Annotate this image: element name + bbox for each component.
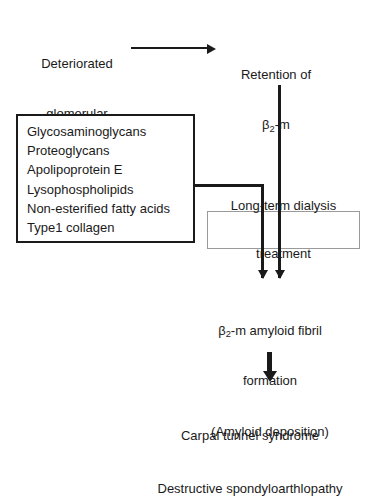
beta-suffix: -m amyloid fibril xyxy=(231,323,322,338)
list-item: Carpal tunnel syndrome xyxy=(128,427,372,445)
beta-subscript: 2 xyxy=(270,124,275,134)
node-retention-line-1: Retention of xyxy=(212,67,340,84)
molecules-list: Glycosaminoglycans Proteoglycans Apolipo… xyxy=(27,122,170,237)
arrowhead-molecules-trunk xyxy=(258,270,268,279)
list-item: Lysophospholipids xyxy=(27,180,170,199)
arrowhead-retention-trunk xyxy=(275,270,285,279)
connector-molecules-vertical xyxy=(261,184,264,278)
arrowhead-amyloid-to-outcomes xyxy=(263,371,277,382)
box-dialysis-treatment: Long-term dialysis treatment xyxy=(207,211,360,249)
flowchart-canvas: Deteriorated glomerular filtration rate … xyxy=(0,0,378,503)
node-retention-line-2: β2-m xyxy=(212,117,340,134)
list-item: Destructive spondyloarthlopathy xyxy=(128,480,372,498)
node-deteriorated-line-1: Deteriorated xyxy=(18,56,136,73)
connector-molecules-horizontal xyxy=(193,184,264,187)
dialysis-line-2: treatment xyxy=(231,246,337,262)
list-item: Glycosaminoglycans xyxy=(27,122,170,141)
connector-gfr-to-retention xyxy=(131,47,209,49)
list-item: Non-esterified fatty acids xyxy=(27,199,170,218)
list-item: Type1 collagen xyxy=(27,218,170,237)
node-amyloid-line-1: β2-m amyloid fibril xyxy=(186,323,354,340)
beta-subscript: 2 xyxy=(226,329,231,339)
connector-retention-trunk xyxy=(278,85,281,278)
dialysis-line-1: Long-term dialysis xyxy=(231,198,337,214)
beta-symbol: β xyxy=(218,323,225,338)
node-retention-b2m: Retention of β2-m xyxy=(212,33,340,168)
box-molecules: Glycosaminoglycans Proteoglycans Apolipo… xyxy=(16,114,195,243)
node-clinical-outcomes: Carpal tunnel syndrome Destructive spond… xyxy=(128,392,372,503)
beta-symbol: β xyxy=(262,117,269,132)
list-item: Proteoglycans xyxy=(27,141,170,160)
list-item: Apolipoprotein E xyxy=(27,160,170,179)
